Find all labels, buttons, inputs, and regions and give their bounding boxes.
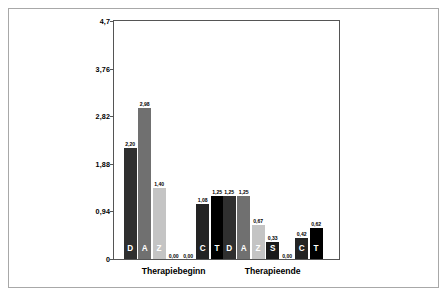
bar-0-1: 2,98A [138, 108, 151, 259]
bar-value-label: 1,25 [212, 189, 222, 195]
bar-1-5: 0,42C [295, 238, 308, 259]
bar-value-label: 0,00 [169, 253, 179, 259]
bar-1-1: 1,25A [237, 196, 250, 259]
y-axis-tickmark-1 [110, 211, 114, 212]
y-axis-tickmark-2 [110, 164, 114, 165]
bar-value-label: 1,25 [239, 189, 249, 195]
plot-panel: 2,20D2,98A1,40Z0,000,001,08C1,25T1,25D1,… [113, 20, 340, 260]
bar-value-label: 2,98 [140, 101, 150, 107]
bar-value-label: 0,42 [297, 231, 307, 237]
figure-root: 00,941,882,823,764,7 2,20D2,98A1,40Z0,00… [0, 0, 448, 297]
x-axis-category-labels: TherapiebeginnTherapieende [113, 266, 340, 282]
bar-value-label: 0,00 [183, 253, 193, 259]
y-axis-tickmark-0 [110, 259, 114, 260]
bar-series-letter: Z [256, 244, 261, 253]
bar-0-5: 1,08C [196, 204, 209, 259]
bar-1-3: 0,33S [266, 242, 279, 259]
y-axis-tick-2: 1,88 [96, 159, 110, 168]
y-axis-tick-1: 0,94 [96, 207, 110, 216]
bar-value-label: 0,67 [253, 218, 263, 224]
bar-value-label: 1,40 [154, 181, 164, 187]
y-axis-tick-5: 4,7 [100, 17, 110, 26]
bar-value-label: 0,00 [282, 253, 292, 259]
y-axis-tick-labels: 00,941,882,823,764,7 [78, 20, 110, 260]
bar-series-letter: C [299, 244, 305, 253]
bar-1-2: 0,67Z [252, 225, 265, 259]
bar-value-label: 0,33 [268, 235, 278, 241]
y-axis-tick-3: 2,82 [96, 112, 110, 121]
bar-0-2: 1,40Z [153, 188, 166, 259]
bar-series-letter: T [314, 244, 319, 253]
bar-series-letter: S [270, 244, 275, 253]
bar-series-letter: A [142, 244, 148, 253]
y-axis-tickmark-5 [110, 21, 114, 22]
bar-1-6: 0,62T [310, 228, 323, 259]
bar-series-letter: A [241, 244, 247, 253]
bar-series-letter: D [226, 244, 232, 253]
bar-series-letter: T [215, 244, 220, 253]
y-axis-tickmark-4 [110, 69, 114, 70]
bar-value-label: 1,25 [224, 189, 234, 195]
category-label-1: Therapieende [245, 266, 301, 276]
bar-series-letter: D [127, 244, 133, 253]
bar-series-letter: C [200, 244, 206, 253]
y-axis-tick-4: 3,76 [96, 64, 110, 73]
plot-area: 2,20D2,98A1,40Z0,000,001,08C1,25T1,25D1,… [114, 21, 339, 259]
category-label-0: Therapiebeginn [142, 266, 206, 276]
bar-series-letter: Z [157, 244, 162, 253]
bar-value-label: 0,62 [311, 221, 321, 227]
bar-0-0: 2,20D [124, 148, 137, 259]
bar-1-0: 1,25D [223, 196, 236, 259]
y-axis-tickmark-3 [110, 116, 114, 117]
bar-value-label: 1,08 [198, 197, 208, 203]
bar-value-label: 2,20 [125, 141, 135, 147]
